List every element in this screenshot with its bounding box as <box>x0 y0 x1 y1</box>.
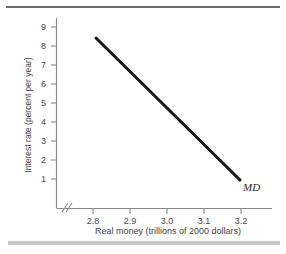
y-tick-label: 5 <box>32 98 46 108</box>
x-tick-label: 3.2 <box>228 216 254 226</box>
y-tick-label: 6 <box>32 79 46 89</box>
y-axis-title: Interest rate (percent per year) <box>23 35 33 195</box>
axis-break-icon <box>62 203 72 212</box>
y-tick-marks <box>51 27 57 179</box>
x-tick-label: 2.9 <box>117 216 143 226</box>
y-tick-label: 1 <box>32 174 46 184</box>
y-tick-label: 8 <box>32 41 46 51</box>
x-tick-label: 3.0 <box>154 216 180 226</box>
y-tick-label: 9 <box>32 22 46 32</box>
x-tick-label: 2.8 <box>80 216 106 226</box>
money-demand-curve-label: MD <box>243 181 260 193</box>
y-tick-label: 3 <box>32 136 46 146</box>
x-axis-title: Real money (trillions of 2000 dollars) <box>56 226 280 236</box>
y-tick-label: 7 <box>32 60 46 70</box>
y-tick-label: 4 <box>32 117 46 127</box>
money-demand-figure: 9 8 7 6 5 4 3 2 1 2.8 2.9 3.0 3.1 3.2 In… <box>0 0 286 254</box>
plot-area: 9 8 7 6 5 4 3 2 1 2.8 2.9 3.0 3.1 3.2 In… <box>0 0 286 254</box>
x-tick-label: 3.1 <box>191 216 217 226</box>
y-tick-label: 2 <box>32 155 46 165</box>
x-tick-marks <box>93 209 241 215</box>
money-demand-curve <box>96 38 240 180</box>
